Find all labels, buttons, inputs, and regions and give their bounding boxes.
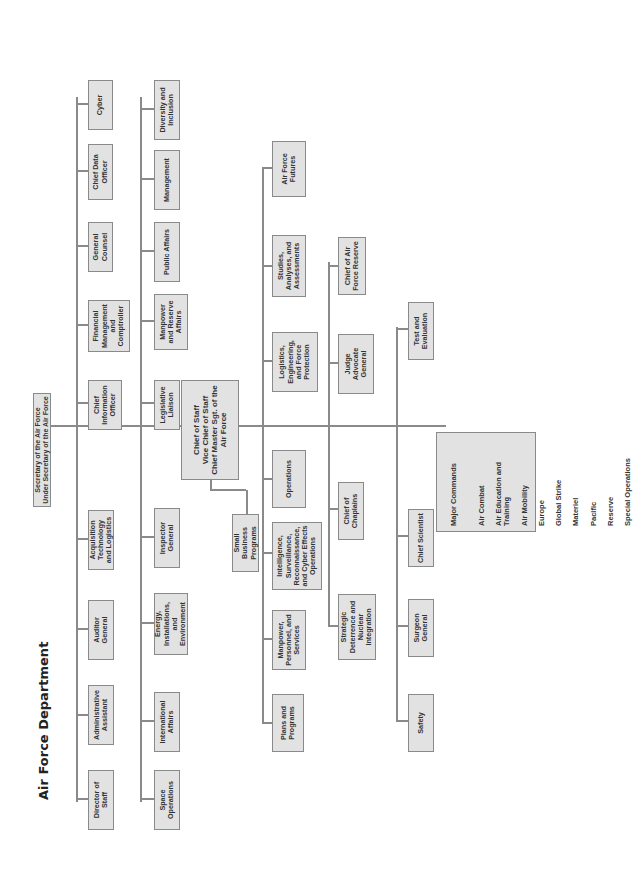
- chart-title: Air Force Department: [36, 642, 51, 800]
- box-isr-cyber-operations: Intelligence, Surveillance, Reconnaissan…: [272, 522, 322, 590]
- drop: [76, 104, 88, 106]
- secretary-box: Secretary of the Air Force Under Secreta…: [33, 393, 51, 507]
- drop: [76, 715, 88, 717]
- drop: [396, 721, 408, 723]
- drop: [140, 109, 154, 111]
- drop: [328, 626, 338, 628]
- drop: [76, 171, 88, 173]
- box-test-and-evaluation: Test and Evaluation: [408, 302, 434, 360]
- box-cyber: Cyber: [88, 80, 113, 130]
- box-chief-scientist: Chief Scientist: [408, 509, 434, 567]
- drop: [262, 168, 272, 170]
- box-energy-installations: Energy, Installations, and Environment: [154, 593, 188, 655]
- command-item: Pacific: [590, 438, 599, 526]
- command-item: Reserve: [607, 438, 616, 526]
- command-item: Europe: [538, 438, 547, 526]
- drop: [396, 329, 408, 331]
- row5-bus: [396, 327, 398, 722]
- drop: [262, 639, 272, 641]
- major-commands-list: Air Combat Air Education and Training Ai…: [469, 438, 637, 526]
- box-chief-data-officer: Chief Data Officer: [88, 144, 113, 200]
- drop: [76, 539, 88, 541]
- drop: [140, 799, 154, 801]
- box-surgeon-general: Surgeon General: [408, 599, 434, 657]
- command-item: Materiel: [572, 438, 581, 526]
- command-item: Air Education and Training: [495, 438, 512, 526]
- box-major-commands: Major Commands Air Combat Air Education …: [436, 432, 536, 532]
- drop: [140, 251, 154, 253]
- drop: [262, 553, 272, 555]
- box-public-affairs: Public Affairs: [154, 222, 180, 282]
- major-commands-title: Major Commands: [450, 438, 459, 526]
- drop: [140, 403, 154, 405]
- drop: [140, 179, 154, 181]
- drop: [76, 246, 88, 248]
- command-item: Global Strike: [555, 438, 564, 526]
- box-director-of-staff: Director of Staff: [88, 770, 114, 830]
- box-operations: Operations: [272, 450, 306, 508]
- box-chief-air-force-reserve: Chief of Air Force Reserve: [338, 237, 366, 295]
- connector: [210, 490, 246, 492]
- command-item: Air Combat: [478, 438, 487, 526]
- box-international-affairs: International Affairs: [154, 692, 180, 752]
- box-general-counsel: General Counsel: [88, 222, 113, 272]
- drop: [76, 799, 88, 801]
- box-manpower-reserve-affairs: Manpower and Reserve Affairs: [154, 294, 188, 350]
- box-inspector-general: Inspector General: [154, 508, 180, 568]
- drop: [262, 723, 272, 725]
- drop: [328, 266, 338, 268]
- drop: [140, 321, 154, 323]
- box-chief-of-chaplains: Chief of Chaplains: [338, 482, 364, 540]
- box-air-force-futures: Air Force Futures: [272, 141, 306, 197]
- box-legislative-liaison: Legislative Liaison: [154, 380, 180, 430]
- box-auditor-general: Auditor General: [88, 600, 114, 660]
- row2-bus: [140, 97, 142, 802]
- drop: [76, 629, 88, 631]
- box-administrative-assistant: Administrative Assistant: [88, 685, 114, 745]
- drop: [262, 479, 272, 481]
- drop: [396, 536, 408, 538]
- box-space-operations: Space Operations: [154, 770, 180, 830]
- row3-bus: [262, 264, 264, 724]
- box-logistics-engineering: Logistics, Engineering, and Force Protec…: [272, 332, 318, 392]
- drop: [140, 721, 154, 723]
- box-acquisition: Acquisition Technology and Logistics: [88, 510, 114, 570]
- command-item: Special Operations: [624, 438, 633, 526]
- drop: [328, 509, 338, 511]
- box-chief-of-staff: Chief of Staff Vice Chief of Staff Chief…: [181, 380, 239, 480]
- box-strategic-deterrence: Strategic Deterrence and Nuclear Integra…: [338, 594, 376, 660]
- connector: [262, 167, 264, 267]
- box-safety: Safety: [408, 694, 434, 752]
- connector: [396, 426, 446, 428]
- command-item: Air Mobility: [521, 438, 530, 526]
- box-studies-analyses: Studies, Analyses, and Assessments: [272, 235, 306, 297]
- drop: [262, 266, 272, 268]
- box-management: Management: [154, 150, 180, 210]
- drop: [140, 623, 154, 625]
- box-plans-and-programs: Plans and Programs: [272, 694, 304, 752]
- box-small-business-programs: Small Business Programs: [232, 514, 259, 572]
- drop: [76, 325, 88, 327]
- row1-bus: [76, 97, 78, 802]
- box-chief-information-officer: Chief Information Officer: [88, 380, 122, 430]
- box-diversity-inclusion: Diversity and Inclusion: [154, 80, 180, 140]
- box-manpower-personnel-services: Manpower, Personnel, and Services: [272, 610, 306, 670]
- box-judge-advocate-general: Judge Advocate General: [338, 334, 374, 394]
- drop: [396, 626, 408, 628]
- drop: [76, 403, 88, 405]
- row4-bus: [328, 262, 330, 627]
- drop: [328, 363, 338, 365]
- drop: [262, 361, 272, 363]
- box-financial-management: Financial Management and Comptroller: [88, 300, 130, 352]
- drop: [140, 537, 154, 539]
